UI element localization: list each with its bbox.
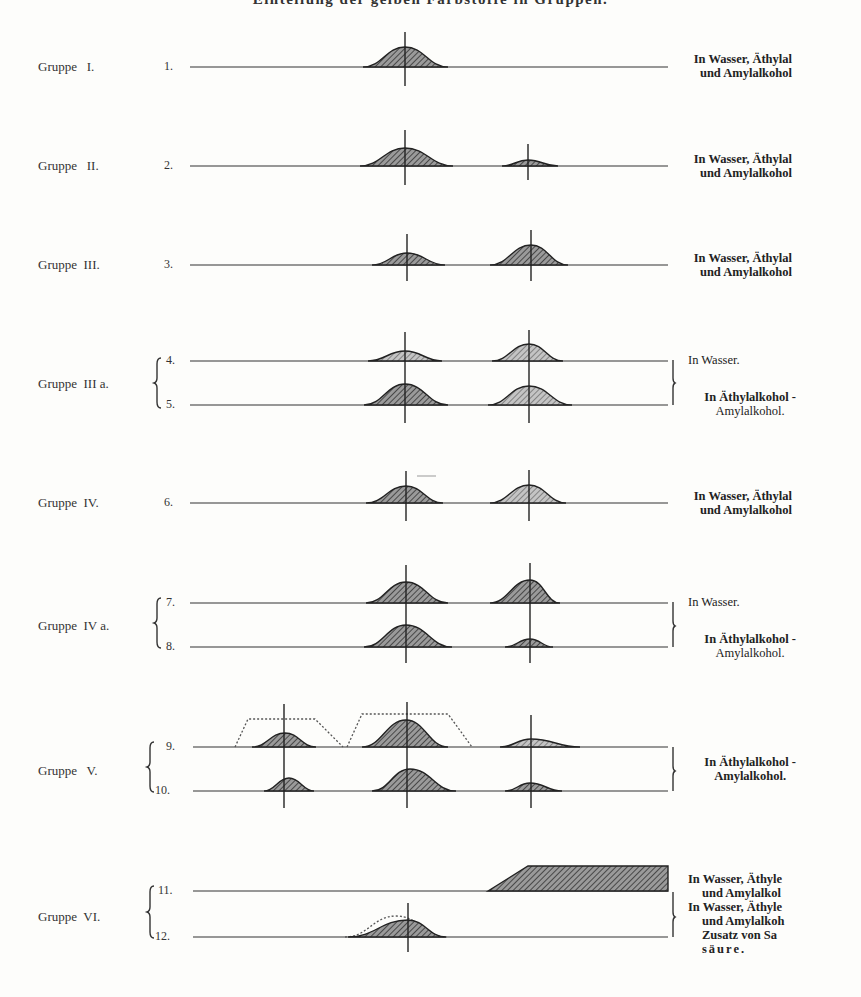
right-braces xyxy=(673,360,675,937)
absorption-band xyxy=(492,344,563,361)
absorption-band xyxy=(502,160,558,166)
absorption-band xyxy=(366,582,448,603)
absorption-band xyxy=(264,778,314,791)
absorption-band xyxy=(348,920,446,937)
absorption-chart xyxy=(0,0,861,997)
absorption-band xyxy=(490,485,566,503)
absorption-band xyxy=(372,253,445,265)
absorption-band xyxy=(490,580,560,603)
absorption-band xyxy=(364,384,448,405)
absorption-band xyxy=(364,625,452,647)
absorption-band xyxy=(360,148,453,166)
absorption-band xyxy=(505,783,562,791)
absorption-band xyxy=(362,720,448,747)
absorption-band xyxy=(490,245,568,265)
absorption-band xyxy=(488,866,668,891)
absorption-band xyxy=(500,739,580,747)
absorption-band xyxy=(372,769,456,791)
left-braces xyxy=(147,358,161,938)
absorption-band xyxy=(505,639,553,647)
plot-layer xyxy=(190,32,668,952)
absorption-band xyxy=(366,486,443,503)
absorption-band xyxy=(488,386,572,405)
